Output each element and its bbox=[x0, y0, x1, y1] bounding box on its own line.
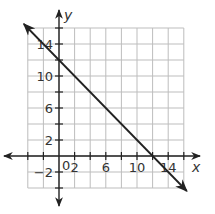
coordinate-plane: 261014−22610140xy bbox=[0, 0, 215, 214]
x-axis-label: x bbox=[191, 159, 201, 175]
x-tick-label: 6 bbox=[102, 160, 110, 175]
y-tick-label: 2 bbox=[45, 133, 53, 148]
y-tick-label: 6 bbox=[45, 101, 53, 116]
y-axis-label: y bbox=[63, 7, 73, 23]
x-tick-label: 10 bbox=[129, 160, 146, 175]
x-tick-label: 2 bbox=[70, 160, 78, 175]
y-tick-label: 10 bbox=[36, 69, 53, 84]
origin-label: 0 bbox=[62, 158, 70, 173]
y-tick-label: −2 bbox=[34, 165, 53, 180]
